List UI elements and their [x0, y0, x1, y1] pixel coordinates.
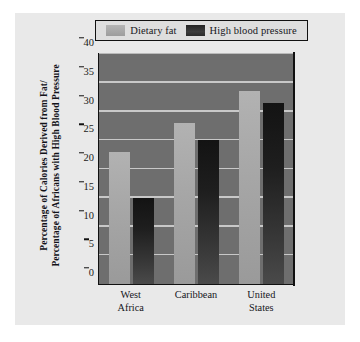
plot-area-wrapper: 0510152025303540: [98, 53, 294, 285]
y-axis-tick-label: 20: [84, 152, 95, 163]
y-axis-title: Percentage of Calories Derived from Fat/…: [38, 40, 63, 290]
y-axis-tick-label: 0: [89, 267, 94, 278]
y-axis-tick-mark: [79, 66, 84, 67]
x-axis-label-line: Caribbean: [163, 289, 228, 302]
bar[interactable]: [174, 123, 195, 284]
y-axis-tick-mark: [84, 239, 89, 240]
plot-area: 0510152025303540: [98, 53, 294, 285]
x-axis-label: UnitedStates: [229, 289, 294, 314]
y-axis-tick-label: 15: [84, 181, 95, 192]
y-axis-tick-label: 5: [89, 239, 94, 250]
x-axis-label: WestAfrica: [98, 289, 163, 314]
y-axis-tick-mark: [84, 267, 89, 268]
bar[interactable]: [239, 91, 260, 284]
x-axis-labels: WestAfricaCaribbeanUnitedStates: [98, 289, 294, 314]
bar[interactable]: [263, 103, 284, 284]
y-axis-tick-label: 10: [84, 210, 95, 221]
bar[interactable]: [133, 198, 154, 284]
y-axis-tick-label: 25: [84, 124, 95, 135]
x-axis-label-line: United: [229, 289, 294, 302]
y-axis-tick-mark: [79, 210, 84, 211]
y-axis-tick-mark: [79, 95, 84, 96]
y-axis-tick-mark: [79, 124, 84, 125]
x-axis-label-line: Africa: [98, 302, 163, 315]
x-axis-label-line: States: [229, 302, 294, 315]
legend-label-high-blood-pressure: High blood pressure: [210, 25, 297, 36]
y-axis-tick-label: 40: [84, 37, 95, 48]
bar-groups: [99, 54, 294, 284]
chart-legend: Dietary fat High blood pressure: [95, 20, 308, 41]
x-axis-label-line: West: [98, 289, 163, 302]
y-axis-tick-mark: [79, 152, 84, 153]
chart-card: Dietary fat High blood pressure Percenta…: [15, 13, 345, 325]
legend-item-high-blood-pressure: High blood pressure: [186, 25, 297, 36]
bar[interactable]: [109, 152, 130, 284]
y-axis-title-line-2: Percentage of Africans with High Blood P…: [50, 40, 62, 290]
legend-item-dietary-fat: Dietary fat: [106, 25, 176, 36]
legend-label-dietary-fat: Dietary fat: [130, 25, 176, 36]
y-axis-tick-label: 35: [84, 66, 95, 77]
legend-swatch-high-blood-pressure: [186, 25, 205, 36]
legend-swatch-dietary-fat: [106, 25, 125, 36]
bar-group: [99, 54, 164, 284]
bar[interactable]: [198, 140, 219, 284]
y-axis-tick-mark: [79, 37, 84, 38]
y-axis-tick-mark: [79, 181, 84, 182]
bar-group: [164, 54, 229, 284]
y-axis-tick-label: 30: [84, 95, 95, 106]
bar-group: [229, 54, 294, 284]
x-axis-label: Caribbean: [163, 289, 228, 314]
y-axis-title-line-1: Percentage of Calories Derived from Fat/: [38, 40, 50, 290]
